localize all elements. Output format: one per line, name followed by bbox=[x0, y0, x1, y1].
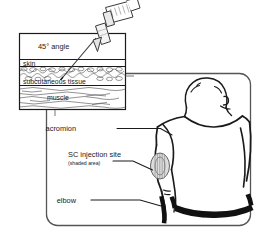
acromion-label: acromion bbox=[46, 124, 76, 133]
cross-section-inset: 45° angle skin subcutaneous tissue muscl… bbox=[19, 0, 140, 116]
injection-angle-label: 45° angle bbox=[38, 42, 69, 51]
skin-layer-label: skin bbox=[23, 60, 35, 67]
injection-diagram-figure: acromion SC injection site (shaded area)… bbox=[0, 0, 263, 252]
sc-injection-site-label: SC injection site bbox=[68, 150, 121, 159]
sc-injection-site-sublabel: (shaded area) bbox=[68, 160, 101, 166]
figure-canvas: acromion SC injection site (shaded area)… bbox=[0, 0, 263, 252]
elbow-label: elbow bbox=[57, 196, 77, 205]
muscle-layer-label: muscle bbox=[47, 94, 69, 101]
subcutaneous-layer-label: subcutaneous tissue bbox=[23, 78, 86, 85]
sc-injection-site-marker bbox=[151, 152, 170, 180]
